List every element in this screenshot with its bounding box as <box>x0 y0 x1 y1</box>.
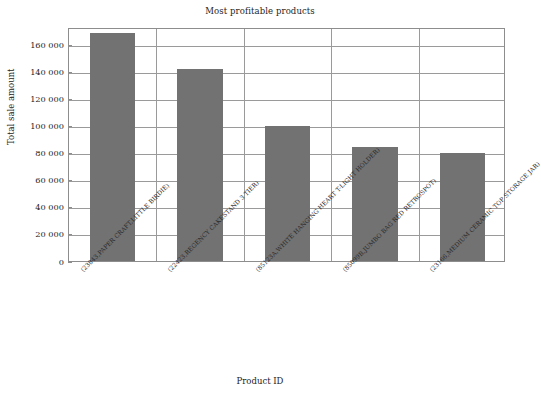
x-tick-label: (23843,PAPER CRAFT,LITTLE BIRDIE) <box>79 182 170 273</box>
x-tick-label: (85099B,JUMBO BAG RED RETROSPOT) <box>341 177 437 273</box>
x-tick-label: (23166,MEDIUM CERAMIC TOP STORAGE JAR) <box>428 160 541 273</box>
x-tick-label: (22423,REGENCY CAKESTAND 3 TIER) <box>166 179 260 273</box>
